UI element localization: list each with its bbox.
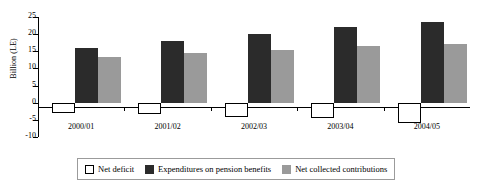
legend-swatch xyxy=(282,165,291,174)
bar-net-collected-contributions xyxy=(357,46,380,103)
bar-net-deficit xyxy=(52,103,75,113)
legend-swatch xyxy=(145,165,154,174)
bar-net-collected-contributions xyxy=(98,57,121,103)
bar-expenditures-pension-benefits xyxy=(421,22,444,103)
group-separator xyxy=(297,107,298,111)
bar-net-collected-contributions xyxy=(184,53,207,103)
legend-label: Net deficit xyxy=(98,164,134,174)
group-separator xyxy=(124,107,125,111)
y-tick-label: 5 xyxy=(32,80,36,90)
y-tick-label: 15 xyxy=(28,45,36,55)
legend-label: Expenditures on pension benefits xyxy=(158,164,271,174)
bar-expenditures-pension-benefits xyxy=(334,27,357,102)
y-tick-label: 20 xyxy=(28,28,36,38)
bar-net-deficit xyxy=(398,103,421,124)
legend-swatch xyxy=(85,165,94,174)
bar-net-collected-contributions xyxy=(271,50,294,103)
plot-area: 2520151050-5-10 xyxy=(38,17,470,137)
group-separator xyxy=(384,107,385,111)
bar-chart: Billion (LE) 2520151050-5-10 2000/012001… xyxy=(0,0,480,191)
y-tick-label: -10 xyxy=(25,131,36,141)
bar-net-deficit xyxy=(311,103,334,119)
bar-expenditures-pension-benefits xyxy=(248,34,271,103)
legend-item-net-collected-contributions: Net collected contributions xyxy=(282,164,387,174)
x-axis-category-label: 2002/03 xyxy=(211,122,297,131)
legend-item-net-deficit: Net deficit xyxy=(85,164,134,174)
bar-expenditures-pension-benefits xyxy=(75,48,98,103)
y-axis-line xyxy=(38,17,39,137)
bar-expenditures-pension-benefits xyxy=(161,41,184,103)
y-tick-label: 10 xyxy=(28,62,36,72)
x-axis-category-label: 2003/04 xyxy=(297,122,383,131)
bar-net-collected-contributions xyxy=(444,44,467,103)
x-axis-category-label: 2001/02 xyxy=(124,122,210,131)
group-separator xyxy=(211,107,212,111)
y-axis-label: Billion (LE) xyxy=(9,19,18,99)
y-tick-label: -5 xyxy=(29,114,36,124)
x-axis-category-label: 2000/01 xyxy=(38,122,124,131)
y-tick-label: 0 xyxy=(32,97,36,107)
legend-label: Net collected contributions xyxy=(295,164,387,174)
legend-item-expenditures-on-pension-benefits: Expenditures on pension benefits xyxy=(145,164,271,174)
bar-net-deficit xyxy=(138,103,161,114)
y-tick-label: 25 xyxy=(28,11,36,21)
chart-legend: Net deficitExpenditures on pension benef… xyxy=(77,158,395,180)
x-axis-category-label: 2004/05 xyxy=(384,122,470,131)
bar-net-deficit xyxy=(225,103,248,117)
